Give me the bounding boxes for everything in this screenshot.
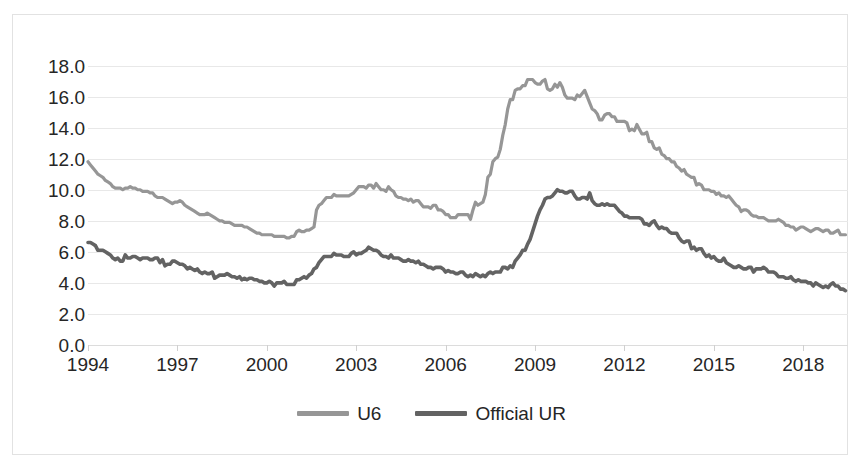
y-tick-label: 0.0 [15,336,85,355]
y-tick-label: 4.0 [15,273,85,292]
y-tick-label: 8.0 [15,211,85,230]
y-tick-label: 2.0 [15,304,85,323]
series-line-u6 [88,80,845,238]
x-tick-label: 2015 [693,355,735,374]
x-tick-mark [88,345,89,351]
x-tick-mark [177,345,178,351]
legend-label: Official UR [475,404,565,423]
x-tick-label: 2012 [603,355,645,374]
unemployment-rate-chart: U6Official UR 18.016.014.012.010.08.06.0… [0,0,863,476]
x-tick-mark [446,345,447,351]
y-tick-label: 18.0 [15,56,85,75]
y-tick-label: 10.0 [15,180,85,199]
x-tick-label: 2018 [782,355,824,374]
y-tick-label: 14.0 [15,118,85,137]
legend-entry-u6[interactable]: U6 [297,404,381,423]
x-tick-label: 2006 [425,355,467,374]
x-tick-mark [356,345,357,351]
x-tick-label: 2003 [335,355,377,374]
x-tick-label: 2009 [514,355,556,374]
legend-entry-official-ur[interactable]: Official UR [415,404,565,423]
x-tick-mark [714,345,715,351]
x-tick-label: 1994 [67,355,109,374]
series-lines [88,50,848,345]
x-tick-label: 2000 [246,355,288,374]
legend-line-swatch [415,411,467,416]
series-line-official-ur [88,190,845,291]
legend-line-swatch [297,411,349,416]
y-tick-label: 6.0 [15,242,85,261]
x-tick-mark [624,345,625,351]
x-tick-label: 1997 [156,355,198,374]
x-tick-mark [535,345,536,351]
y-tick-label: 16.0 [15,87,85,106]
x-tick-mark [803,345,804,351]
legend-label: U6 [357,404,381,423]
plot-area [88,50,848,345]
y-tick-label: 12.0 [15,149,85,168]
x-tick-mark [267,345,268,351]
gridline-0 [88,345,848,346]
chart-legend: U6Official UR [0,404,863,423]
